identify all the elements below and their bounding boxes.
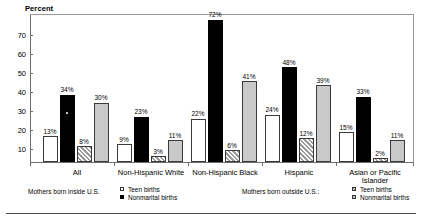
x-tick-4	[336, 163, 337, 166]
chart-container: Percent 70 60 50 40 30 20 10 13% 34% 8% …	[0, 0, 422, 221]
bar-asian-nonmarital-outside[interactable]	[390, 140, 405, 162]
bar-label-nhwhite-nonmarital-inside: 23%	[128, 109, 154, 116]
bar-nhwhite-teen-inside[interactable]	[117, 144, 132, 162]
bar-group-asian-pacific-islander: 15% 33% 2% 11%	[337, 14, 409, 162]
bar-nhblack-nonmarital-outside[interactable]	[242, 81, 257, 162]
x-axis-label-hispanic: Hispanic	[263, 169, 335, 178]
y-tick-label-40: 40	[6, 89, 26, 97]
x-axis-label-non-hispanic-black: Non-Hispanic Black	[186, 169, 264, 178]
y-tick-label-60: 60	[6, 51, 26, 59]
bar-label-asian-nonmarital-outside: 11%	[384, 133, 410, 140]
bar-hispanic-teen-inside[interactable]	[265, 115, 280, 162]
bar-all-nonmarital-inside[interactable]	[60, 95, 75, 162]
legend-swatch-hatched-square-icon	[352, 187, 356, 191]
x-axis-label-all: All	[41, 169, 113, 178]
bar-label-all-nonmarital-inside: 34%	[54, 87, 80, 94]
bar-all-teen-inside[interactable]	[43, 136, 58, 162]
bar-hispanic-nonmarital-inside[interactable]	[282, 67, 297, 162]
bar-group-all: 13% 34% 8% 30%	[41, 14, 113, 162]
y-tick-label-20: 20	[6, 127, 26, 135]
x-axis-label-asian-line2: Islander	[336, 177, 414, 186]
bar-group-hispanic: 24% 48% 12% 39%	[263, 14, 335, 162]
legend-swatch-gray-square-icon	[352, 195, 356, 199]
legend-entry-teen-outside-label: Teen births	[360, 186, 392, 193]
legend-entry-nonmarital-outside-label: Nonmarital births	[360, 194, 409, 201]
bar-nhwhite-nonmarital-outside[interactable]	[168, 140, 183, 162]
footer-divider	[6, 213, 416, 214]
bars-layer: 13% 34% 8% 30% 9% 23% 3% 11% 22% 72%	[31, 14, 413, 162]
x-tick-1	[114, 163, 115, 166]
bar-label-nhblack-nonmarital-inside: 72%	[202, 12, 228, 19]
legend-entry-nonmarital-inside[interactable]: Nonmarital births	[120, 194, 177, 203]
bar-asian-teen-outside[interactable]	[373, 158, 388, 162]
bar-nhblack-teen-outside[interactable]	[225, 150, 240, 162]
bar-label-hispanic-nonmarital-inside: 48%	[276, 60, 302, 67]
x-tick-3	[262, 163, 263, 166]
bar-hispanic-teen-outside[interactable]	[299, 138, 314, 162]
legend-entry-nonmarital-outside[interactable]: Nonmarital births	[352, 194, 409, 203]
bar-label-nhblack-nonmarital-outside: 41%	[236, 74, 262, 81]
y-tick-label-70: 70	[6, 32, 26, 40]
legend-inside-us-title: Mothers born inside U.S.	[28, 188, 100, 197]
bar-hispanic-nonmarital-outside[interactable]	[316, 85, 331, 162]
y-axis-title: Percent	[25, 4, 53, 13]
bar-label-asian-nonmarital-inside: 33%	[350, 89, 376, 96]
y-tick-label-10: 10	[6, 146, 26, 154]
x-tick-2	[188, 163, 189, 166]
bar-group-non-hispanic-black: 22% 72% 6% 41%	[189, 14, 261, 162]
x-tick-0	[30, 163, 31, 166]
bar-marker-dot	[66, 112, 68, 114]
bar-label-nhwhite-nonmarital-outside: 11%	[162, 133, 188, 140]
bar-label-hispanic-nonmarital-outside: 39%	[310, 78, 336, 85]
x-tick-5	[413, 163, 414, 166]
bar-nhblack-nonmarital-inside[interactable]	[208, 20, 223, 162]
legend-entry-teen-inside-label: Teen births	[128, 186, 160, 193]
bar-nhwhite-nonmarital-inside[interactable]	[134, 117, 149, 163]
legend-entry-nonmarital-inside-label: Nonmarital births	[128, 194, 177, 201]
y-tick-label-30: 30	[6, 108, 26, 116]
legend-swatch-white-square-icon	[120, 187, 124, 191]
y-tick-label-50: 50	[6, 70, 26, 78]
bar-nhblack-teen-inside[interactable]	[191, 119, 206, 163]
bar-nhwhite-teen-outside[interactable]	[151, 156, 166, 162]
bar-all-nonmarital-outside[interactable]	[94, 103, 109, 162]
legend-outside-us-title: Mothers born outside U.S.:	[242, 188, 319, 197]
bar-asian-teen-inside[interactable]	[339, 132, 354, 162]
bar-group-non-hispanic-white: 9% 23% 3% 11%	[115, 14, 187, 162]
bar-all-teen-outside[interactable]	[77, 146, 92, 162]
bar-label-all-nonmarital-outside: 30%	[88, 95, 114, 102]
legend-swatch-black-square-icon	[120, 195, 124, 199]
x-axis-label-non-hispanic-white: Non-Hispanic White	[112, 169, 190, 178]
